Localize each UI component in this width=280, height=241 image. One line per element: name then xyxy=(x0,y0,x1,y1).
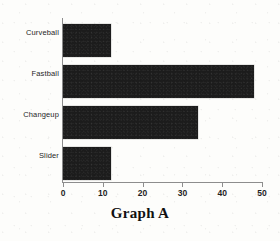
x-tick-mark xyxy=(63,183,64,187)
x-tick-mark xyxy=(103,183,104,187)
x-tick-label: 20 xyxy=(131,188,155,198)
category-label-fastball: Fastball xyxy=(1,69,59,78)
category-label-slider: Slider xyxy=(1,151,59,160)
x-tick-label: 10 xyxy=(91,188,115,198)
bar-curveball xyxy=(63,24,111,57)
x-tick-label: 0 xyxy=(51,188,75,198)
x-tick-label: 50 xyxy=(250,188,274,198)
x-tick-mark xyxy=(262,183,263,187)
page-title: Graph A xyxy=(0,205,280,222)
bar-fastball xyxy=(63,65,254,98)
category-label-changeup: Changeup xyxy=(1,110,59,119)
category-label-curveball: Curveball xyxy=(1,28,59,37)
x-tick-mark xyxy=(222,183,223,187)
x-tick-label: 40 xyxy=(210,188,234,198)
bar-changeup xyxy=(63,106,198,139)
bar-slider xyxy=(63,147,111,180)
x-tick-mark xyxy=(182,183,183,187)
plot-area: 01020304050 xyxy=(63,18,262,182)
category-axis-labels: Curveball Fastball Changeup Slider xyxy=(0,18,59,182)
bar-chart-figure: Curveball Fastball Changeup Slider 01020… xyxy=(0,0,280,241)
x-axis-line xyxy=(62,182,263,183)
x-tick-label: 30 xyxy=(170,188,194,198)
x-tick-mark xyxy=(143,183,144,187)
